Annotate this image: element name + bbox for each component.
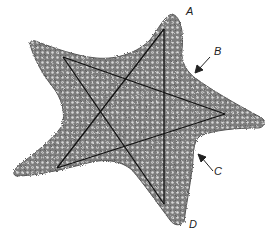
- starfish-diagram: [0, 0, 268, 228]
- starfish-body: [14, 14, 264, 225]
- arrow-c: [198, 154, 213, 171]
- arrow-b: [195, 57, 210, 73]
- label-a: A: [186, 6, 193, 17]
- label-c: C: [214, 166, 222, 177]
- label-b: B: [214, 46, 221, 57]
- label-d: D: [189, 219, 197, 228]
